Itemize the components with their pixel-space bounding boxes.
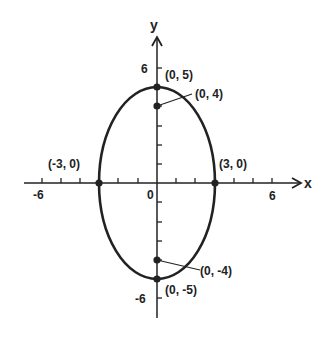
label-neg3-0: (-3, 0) [48, 157, 80, 171]
point-neg3-0 [95, 179, 102, 186]
x-tick-6: 6 [269, 189, 276, 203]
label-0-neg5: (0, -5) [165, 283, 197, 297]
label-0-5: (0, 5) [165, 68, 193, 82]
ellipse-diagram: y x -6 0 6 6 -6 (0, 5) (0, 4) (-3, 0) (3… [0, 0, 326, 337]
y-axis-label: y [150, 17, 158, 33]
leader-0-neg4 [157, 260, 200, 270]
x-axis-label: x [304, 175, 312, 191]
x-tick-0: 0 [147, 188, 154, 202]
point-3-0 [211, 179, 218, 186]
x-axis [24, 178, 301, 188]
y-tick-6: 6 [141, 62, 148, 76]
label-0-neg4: (0, -4) [200, 264, 232, 278]
label-3-0: (3, 0) [219, 157, 247, 171]
y-tick-neg6: -6 [135, 292, 146, 306]
point-0-neg5 [153, 275, 160, 282]
label-0-4: (0, 4) [195, 87, 223, 101]
x-tick-neg6: -6 [33, 188, 44, 202]
point-0-5 [153, 83, 160, 90]
